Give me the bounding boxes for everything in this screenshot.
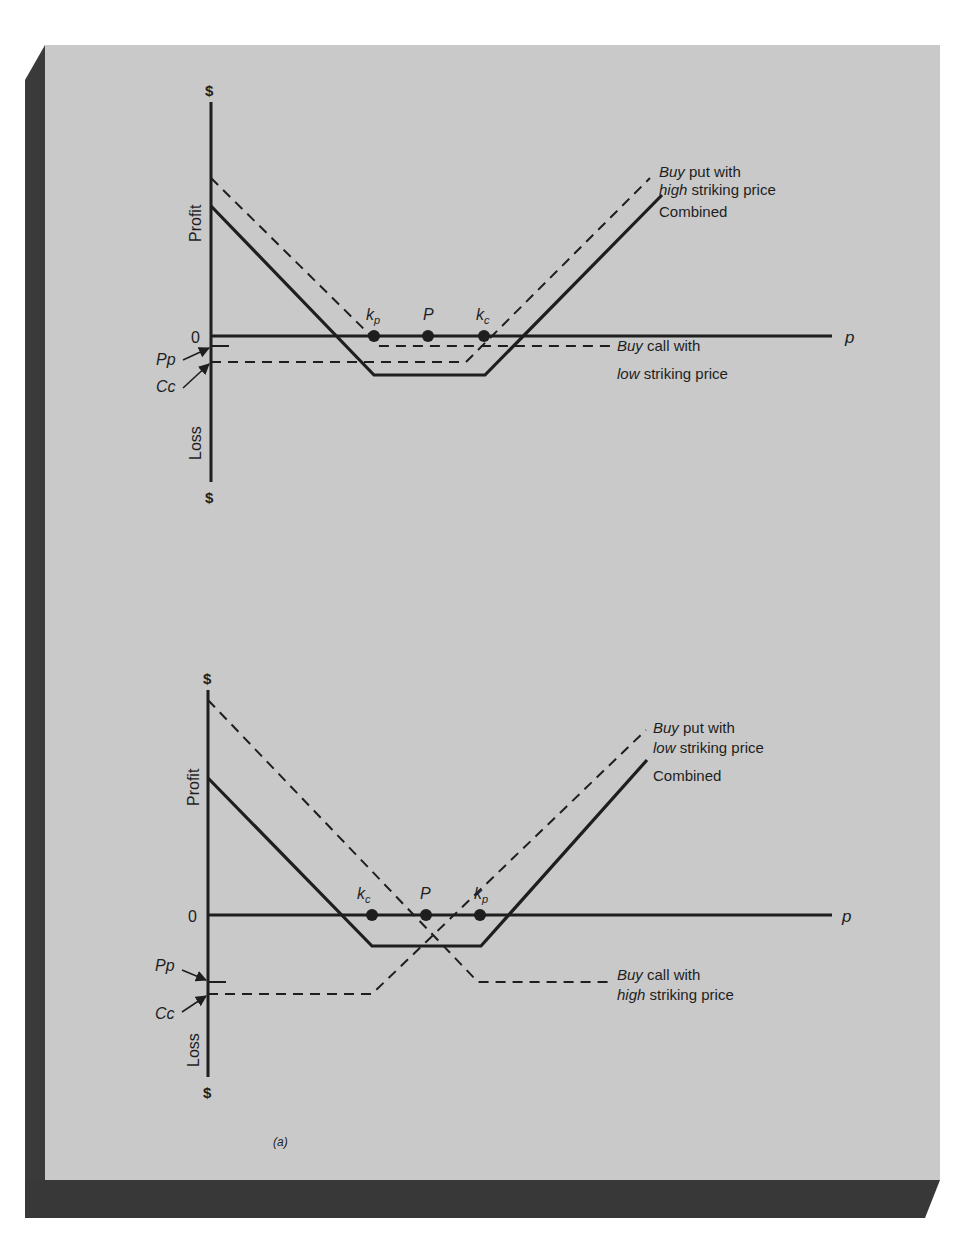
bottom-legend-call-line2: high striking price <box>617 986 734 1003</box>
top-legend-call-line1: Buy call with <box>617 337 700 354</box>
bottom-point-kp <box>474 909 486 921</box>
top-dollar-bottom: $ <box>205 489 214 506</box>
bottom-dollar-bottom: $ <box>203 1084 212 1101</box>
bottom-legend-call-line1: Buy call with <box>617 966 700 983</box>
top-legend-combined: Combined <box>659 203 727 220</box>
top-legend-call-line2: low striking price <box>617 365 728 382</box>
figure-caption: (a) <box>273 1135 288 1149</box>
top-point-kp <box>368 330 380 342</box>
bottom-legend-put-line2: low striking price <box>653 739 764 756</box>
bottom-cc-label: Cc <box>155 1005 175 1022</box>
option-combination-figure: $ $ Profit Loss 0 p Pp Cc kp P kc Buy pu… <box>0 0 975 1251</box>
bottom-point-P-label: P <box>420 885 431 902</box>
top-zero-label: 0 <box>191 329 200 346</box>
top-legend-put-line2: high striking price <box>659 181 776 198</box>
top-p-axis-label: p <box>844 328 854 347</box>
top-point-P <box>422 330 434 342</box>
bottom-point-kc <box>366 909 378 921</box>
top-point-P-label: P <box>423 306 434 323</box>
figure-panel <box>45 45 940 1180</box>
bottom-loss-label: Loss <box>185 1033 202 1067</box>
slab-shadow-left <box>25 45 45 1180</box>
top-point-kc <box>478 330 490 342</box>
top-profit-label: Profit <box>187 204 204 242</box>
bottom-p-axis-label: p <box>841 907 851 926</box>
top-pp-label: Pp <box>156 351 176 368</box>
top-loss-label: Loss <box>187 426 204 460</box>
bottom-legend-put-line1: Buy put with <box>653 719 735 736</box>
top-legend-put-line1: Buy put with <box>659 163 741 180</box>
slab-shadow-bottom <box>25 1180 940 1218</box>
top-dollar-top: $ <box>205 82 214 99</box>
bottom-profit-label: Profit <box>185 768 202 806</box>
bottom-dollar-top: $ <box>203 670 212 687</box>
bottom-point-P <box>420 909 432 921</box>
bottom-legend-combined: Combined <box>653 767 721 784</box>
bottom-zero-label: 0 <box>188 908 197 925</box>
bottom-pp-label: Pp <box>155 957 175 974</box>
top-cc-label: Cc <box>156 378 176 395</box>
